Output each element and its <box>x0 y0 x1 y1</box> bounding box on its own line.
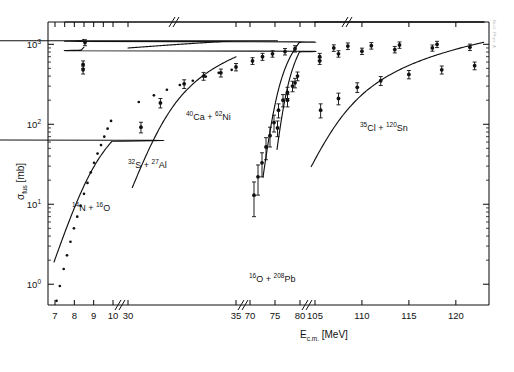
x-axis-ticks <box>55 22 456 305</box>
x-axis-title: Ec.m. [MeV] <box>300 329 348 342</box>
data-point <box>55 299 58 302</box>
data-point <box>110 120 113 123</box>
margin-reference-note: Nucl. Phys. A <box>492 20 497 48</box>
data-point <box>69 240 72 243</box>
x-tick-label: 10 <box>108 310 119 321</box>
svg-text:Ec.m. [MeV]: Ec.m. [MeV] <box>300 329 348 342</box>
y-axis-ticks <box>48 44 489 284</box>
data-point <box>89 171 92 174</box>
data-point <box>251 59 255 63</box>
figure-root: 100101102103 789103035707580105110115120… <box>0 0 514 372</box>
x-tick-label: 105 <box>307 310 323 321</box>
data-point <box>293 47 297 51</box>
ann-35cl-120sn: 35Cl + 120Sn <box>360 121 408 133</box>
data-point <box>271 52 275 56</box>
data-point <box>153 94 156 97</box>
data-point <box>276 126 280 130</box>
series-4-points <box>81 44 472 137</box>
data-curves <box>0 22 484 262</box>
data-points <box>55 40 476 302</box>
y-tick-label: 103 <box>27 38 42 50</box>
data-point <box>100 144 103 147</box>
x-tick-label: 30 <box>123 310 134 321</box>
data-point <box>86 182 89 185</box>
data-point <box>286 98 290 102</box>
series-annotations: 14N + 16O32S + 27Al40Ca + 62Ni16O + 208P… <box>72 110 408 284</box>
x-tick-label: 8 <box>72 310 77 321</box>
data-point <box>337 52 341 56</box>
data-point <box>159 101 163 105</box>
data-point <box>318 59 322 63</box>
y-axis-tick-labels: 100101102103 <box>27 38 42 290</box>
data-point <box>139 125 143 129</box>
ann-40ca-62ni: 40Ca + 62Ni <box>186 110 231 122</box>
data-point <box>58 285 61 288</box>
data-point <box>440 68 444 72</box>
y-tick-label: 102 <box>27 118 42 130</box>
data-point <box>435 42 439 46</box>
data-point <box>332 46 336 50</box>
x-tick-label: 75 <box>270 310 281 321</box>
data-point <box>337 97 341 101</box>
series-1-points <box>55 68 233 302</box>
x-tick-label: 120 <box>448 310 464 321</box>
data-point <box>166 88 169 91</box>
data-point <box>62 268 65 271</box>
data-point <box>81 68 85 72</box>
x-tick-label: 110 <box>354 310 369 321</box>
data-point <box>103 135 106 138</box>
x-tick-label: 80 <box>295 310 306 321</box>
data-point <box>296 74 300 78</box>
data-point <box>260 161 264 165</box>
x-tick-label: 35 <box>231 310 242 321</box>
data-point <box>93 161 96 164</box>
svg-text:σfus [mb]: σfus [mb] <box>15 163 28 200</box>
data-point <box>66 254 69 257</box>
data-point <box>230 68 233 71</box>
data-point <box>137 101 140 104</box>
curve-16o-208pb-seg0 <box>64 47 316 149</box>
plot-frame <box>48 22 489 305</box>
data-point <box>379 79 383 83</box>
fusion-cross-section-chart: 100101102103 789103035707580105110115120… <box>0 0 514 372</box>
data-point <box>355 85 359 89</box>
data-point <box>178 84 181 87</box>
x-axis-tick-labels: 789103035707580105110115120 <box>52 310 463 321</box>
data-point <box>319 108 323 112</box>
data-point <box>473 64 477 68</box>
data-point <box>360 49 364 53</box>
data-point <box>219 71 223 75</box>
data-point <box>346 44 350 48</box>
data-point <box>281 98 285 102</box>
data-point <box>468 45 472 49</box>
data-point <box>234 65 238 69</box>
data-point <box>369 44 373 48</box>
data-point <box>202 74 206 78</box>
data-point <box>106 127 109 130</box>
data-point <box>430 46 434 50</box>
ann-32s-27al: 32S + 27Al <box>128 158 167 170</box>
data-point <box>283 50 287 54</box>
data-point <box>73 227 76 230</box>
data-point <box>261 55 265 59</box>
data-point <box>272 121 276 125</box>
data-point <box>83 192 86 195</box>
y-tick-label: 100 <box>27 278 42 290</box>
data-point <box>407 73 411 77</box>
data-point <box>264 145 268 149</box>
data-point <box>398 43 402 47</box>
x-tick-label: 70 <box>245 310 256 321</box>
data-point <box>393 48 397 52</box>
data-point <box>182 82 186 86</box>
data-point <box>293 81 297 85</box>
x-tick-label: 9 <box>91 310 96 321</box>
data-point <box>277 108 281 112</box>
data-point <box>268 134 272 138</box>
data-point <box>191 79 194 82</box>
data-point <box>252 193 256 197</box>
ann-14n-16o: 14N + 16O <box>72 201 110 213</box>
y-axis-title: σfus [mb] <box>15 163 28 200</box>
data-point <box>96 152 99 155</box>
data-point <box>286 91 290 95</box>
data-point <box>76 215 79 218</box>
